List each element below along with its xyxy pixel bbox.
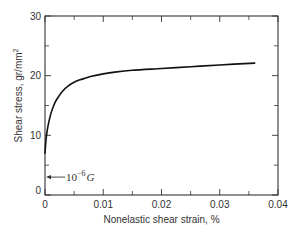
annotation: 10−6G <box>46 169 95 183</box>
y-tick-label: 30 <box>30 11 42 22</box>
annotation-base: 10 <box>66 171 78 183</box>
annotation-arrow-head <box>46 175 51 179</box>
annotation-text: 10−6G <box>66 169 95 183</box>
y-tick-label: 0 <box>35 185 41 196</box>
y-axis-label-text: Shear stress, gr/mm <box>13 52 24 142</box>
annotation-exponent: −6 <box>77 169 86 178</box>
x-tick-label: 0 <box>42 199 48 210</box>
chart: 00.010.020.030.040102030 Nonelastic shea… <box>0 0 302 232</box>
y-axis-label-superscript: 2 <box>12 48 19 52</box>
x-tick-label: 0.02 <box>152 199 172 210</box>
x-tick-label: 0.04 <box>268 199 288 210</box>
y-tick-label: 10 <box>30 130 42 141</box>
x-axis-label: Nonelastic shear strain, % <box>103 214 219 225</box>
x-tick-label: 0.03 <box>210 199 230 210</box>
y-axis-label: Shear stress, gr/mm2 <box>12 48 24 142</box>
y-tick-label: 20 <box>30 70 42 81</box>
annotation-symbol: G <box>87 171 95 183</box>
x-tick-label: 0.01 <box>94 199 114 210</box>
series <box>45 63 255 153</box>
series-line <box>45 63 255 153</box>
